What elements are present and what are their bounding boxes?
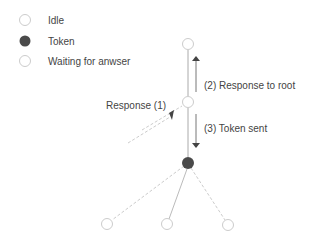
legend-idle-label: Idle: [48, 15, 64, 27]
response1-label: Response (1): [106, 100, 166, 112]
edge-right-leaf: [191, 168, 225, 220]
leaf-node-left: [102, 219, 113, 230]
legend-waiting-icon: [20, 56, 31, 67]
legend-token-label: Token: [48, 36, 75, 48]
edge-middle-leaf: [169, 169, 187, 219]
edge-dashed-left: [112, 166, 184, 220]
response-arrow-icon: [169, 110, 174, 120]
response-edge-2: [128, 117, 170, 143]
response-to-root-label: (2) Response to root: [204, 80, 295, 92]
legend-idle-icon: [20, 15, 31, 26]
token-node: [182, 157, 194, 169]
legend-token-icon: [20, 36, 31, 47]
leaf-node-middle: [162, 219, 173, 230]
leaf-node-right: [223, 220, 234, 231]
legend-waiting-label: Waiting for anwser: [48, 56, 130, 68]
arrow-down-icon: [192, 143, 200, 148]
root-node: [183, 39, 194, 50]
middle-node: [183, 97, 194, 108]
token-sent-label: (3) Token sent: [204, 123, 267, 135]
arrow-up-icon: [192, 56, 200, 61]
